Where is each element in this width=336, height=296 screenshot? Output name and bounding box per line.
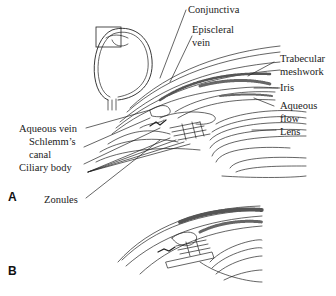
label-ciliary-body: Ciliary body [19,162,72,173]
anatomy-drawing [0,0,336,296]
panel-label-b: B [8,264,17,278]
label-schlemms-canal-line1: Schlemm’s [29,136,76,147]
label-aqueous-flow-line2: flow [280,113,299,124]
leader-lines [84,10,278,198]
label-episcleral-vein-line2: vein [192,37,210,48]
label-trabecular-meshwork-line2: meshwork [280,66,324,77]
label-schlemms-canal-line2: canal [29,149,51,160]
panel-b-drawing [118,206,262,282]
label-conjunctiva: Conjunctiva [188,4,239,15]
panel-a-drawing [88,46,306,178]
label-aqueous-vein: Aqueous vein [19,123,77,134]
eye-globe-inset [94,27,152,110]
panel-label-a: A [8,190,17,204]
eye-anatomy-figure: Conjunctiva Episcleral vein Trabecular m… [0,0,336,296]
label-lens: Lens [280,126,300,137]
label-trabecular-meshwork-line1: Trabecular [280,53,325,64]
label-zonules: Zonules [44,194,78,205]
label-iris: Iris [280,82,294,93]
label-episcleral-vein-line1: Episcleral [192,24,234,35]
label-aqueous-flow-line1: Aqueous [280,100,317,111]
